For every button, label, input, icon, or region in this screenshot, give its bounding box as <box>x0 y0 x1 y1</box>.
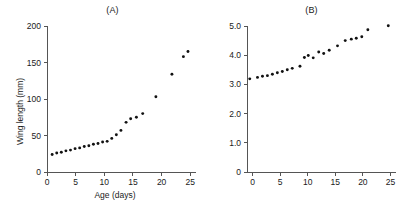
data-point <box>154 95 157 98</box>
data-point <box>64 149 67 152</box>
panel-b-y-tick-label: 5.0 <box>229 21 241 31</box>
data-point <box>170 73 173 76</box>
data-point <box>299 65 302 68</box>
panel-b-y-tick-label: 1.0 <box>229 138 241 148</box>
data-point <box>291 67 294 70</box>
data-point <box>328 49 331 52</box>
data-point <box>106 140 109 143</box>
panel-a-y-tick-label: 200 <box>27 21 41 31</box>
data-point <box>322 52 325 55</box>
data-point <box>256 76 259 79</box>
panel-b-x-tick-label: 20 <box>358 177 368 187</box>
data-point <box>119 129 122 132</box>
data-point <box>110 137 113 140</box>
data-point <box>125 121 128 124</box>
data-point <box>360 35 363 38</box>
data-point <box>141 112 144 115</box>
data-point <box>92 143 95 146</box>
panel-b-data-series <box>248 24 389 80</box>
data-point <box>366 28 369 31</box>
panel-a-x-tick-label: 10 <box>100 177 110 187</box>
panel-a-x-tick-label: 25 <box>186 177 196 187</box>
panel-b-y-tick-label: 4.0 <box>229 50 241 60</box>
data-point <box>182 55 185 58</box>
data-point <box>60 151 63 154</box>
data-point <box>87 144 90 147</box>
data-point <box>266 74 269 77</box>
data-point <box>312 56 315 59</box>
data-point <box>78 146 81 149</box>
panel-a-x-tick-label: 5 <box>73 177 78 187</box>
panel-b-y-tick-label: 0 <box>236 167 241 177</box>
panel-a-plot: 0501001502000510152025 <box>0 0 203 216</box>
panel-b-x-tick-label: 15 <box>331 177 341 187</box>
data-point <box>74 147 77 150</box>
panel-a: (A) Wing length (mm) Age (days) 05010015… <box>0 0 203 216</box>
data-point <box>135 116 138 119</box>
data-point <box>344 39 347 42</box>
panel-a-y-tick-label: 100 <box>27 94 41 104</box>
data-point <box>317 51 320 54</box>
data-point <box>276 71 279 74</box>
data-point <box>129 117 132 120</box>
panel-b-y-tick-label: 2.0 <box>229 109 241 119</box>
panel-a-y-tick-label: 0 <box>36 167 41 177</box>
data-point <box>101 141 104 144</box>
data-point <box>286 68 289 71</box>
panel-a-y-tick-label: 50 <box>32 131 42 141</box>
data-point <box>51 153 54 156</box>
data-point <box>350 38 353 41</box>
data-point <box>55 152 58 155</box>
data-point <box>303 56 306 59</box>
data-point <box>336 44 339 47</box>
panel-b-x-tick-label: 25 <box>386 177 396 187</box>
panel-a-x-tick-label: 0 <box>45 177 50 187</box>
data-point <box>355 37 358 40</box>
data-point <box>115 133 118 136</box>
data-point <box>248 77 251 80</box>
data-point <box>187 50 190 53</box>
data-point <box>69 149 72 152</box>
panel-b: (B) ln (wing length) Age (days) 01.02.03… <box>203 0 406 216</box>
panel-b-y-tick-label: 3.0 <box>229 79 241 89</box>
data-point <box>271 73 274 76</box>
panel-a-y-tick-label: 150 <box>27 58 41 68</box>
data-point <box>307 54 310 57</box>
panel-b-plot: 01.02.03.04.05.00510152025 <box>203 0 406 216</box>
data-point <box>83 145 86 148</box>
data-point <box>261 75 264 78</box>
panel-b-x-tick-label: 0 <box>250 177 255 187</box>
panel-b-x-tick-label: 10 <box>303 177 313 187</box>
panel-a-data-series <box>51 50 190 156</box>
data-point <box>281 70 284 73</box>
data-point <box>97 142 100 145</box>
data-point <box>387 24 390 27</box>
figure-container: (A) Wing length (mm) Age (days) 05010015… <box>0 0 406 216</box>
panel-a-x-tick-label: 20 <box>157 177 167 187</box>
panel-b-x-tick-label: 5 <box>278 177 283 187</box>
panel-a-x-tick-label: 15 <box>128 177 138 187</box>
